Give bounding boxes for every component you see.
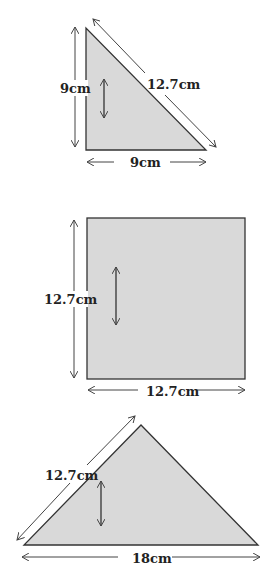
isosceles-triangle-shape [24,425,258,545]
base-label: 12.7cm [146,384,200,399]
base-label: 18cm [132,551,172,566]
hypotenuse-label: 12.7cm [147,77,201,92]
base-label: 9cm [130,155,161,170]
isosceles-triangle-figure: 12.7cm 18cm [17,416,260,566]
height-label: 9cm [60,81,91,96]
shapes-diagram: 9cm 12.7cm 9cm 12.7cm 12.7cm 12.7cm 18cm [0,0,269,580]
side-label: 12.7cm [45,468,99,483]
square-figure: 12.7cm 12.7cm [44,218,245,399]
right-triangle-figure: 9cm 12.7cm 9cm [58,19,216,170]
height-label: 12.7cm [44,292,98,307]
square-shape [87,218,245,379]
